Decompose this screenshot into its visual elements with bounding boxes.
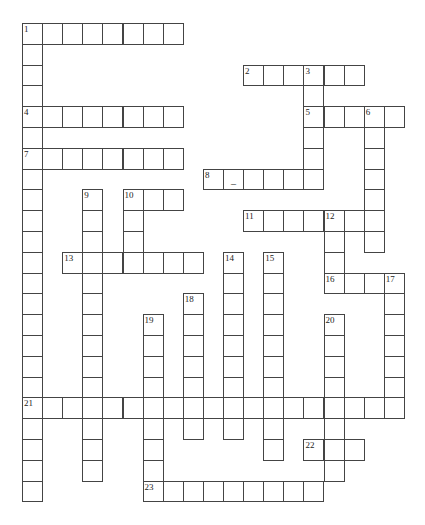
grid-cell[interactable] bbox=[324, 377, 345, 399]
grid-cell[interactable] bbox=[163, 148, 184, 170]
grid-cell[interactable] bbox=[263, 314, 284, 336]
grid-cell[interactable] bbox=[102, 23, 123, 45]
grid-cell[interactable]: 21 bbox=[22, 397, 43, 419]
grid-cell[interactable] bbox=[223, 377, 244, 399]
grid-cell[interactable] bbox=[263, 273, 284, 295]
grid-cell[interactable] bbox=[42, 106, 63, 128]
grid-cell[interactable]: 11 bbox=[243, 210, 264, 232]
grid-cell[interactable]: 14 bbox=[223, 252, 244, 274]
grid-cell[interactable]: 19 bbox=[143, 314, 164, 336]
grid-cell[interactable] bbox=[303, 397, 324, 419]
grid-cell[interactable] bbox=[344, 210, 365, 232]
grid-cell[interactable]: 4 bbox=[22, 106, 43, 128]
grid-cell[interactable] bbox=[384, 356, 405, 378]
grid-cell[interactable] bbox=[22, 127, 43, 149]
grid-cell[interactable] bbox=[22, 460, 43, 482]
grid-cell[interactable] bbox=[324, 439, 345, 461]
grid-cell[interactable] bbox=[82, 231, 103, 253]
grid-cell[interactable] bbox=[183, 397, 204, 419]
grid-cell[interactable] bbox=[344, 439, 365, 461]
grid-cell[interactable]: 18 bbox=[183, 293, 204, 315]
grid-cell[interactable] bbox=[22, 439, 43, 461]
grid-cell[interactable] bbox=[163, 252, 184, 274]
grid-cell[interactable] bbox=[123, 210, 144, 232]
grid-cell[interactable] bbox=[384, 293, 405, 315]
grid-cell[interactable] bbox=[384, 397, 405, 419]
grid-cell[interactable] bbox=[143, 23, 164, 45]
grid-cell[interactable]: 5 bbox=[303, 106, 324, 128]
grid-cell[interactable] bbox=[384, 314, 405, 336]
grid-cell[interactable] bbox=[42, 148, 63, 170]
grid-cell[interactable]: 8 bbox=[203, 169, 224, 191]
grid-cell[interactable] bbox=[163, 397, 184, 419]
grid-cell[interactable] bbox=[163, 106, 184, 128]
grid-cell[interactable] bbox=[203, 481, 224, 503]
grid-cell[interactable] bbox=[283, 210, 304, 232]
grid-cell[interactable] bbox=[22, 418, 43, 440]
grid-cell[interactable] bbox=[62, 23, 83, 45]
grid-cell[interactable] bbox=[223, 356, 244, 378]
grid-cell[interactable] bbox=[183, 418, 204, 440]
grid-cell[interactable] bbox=[183, 356, 204, 378]
grid-cell[interactable]: 20 bbox=[324, 314, 345, 336]
grid-cell[interactable] bbox=[223, 481, 244, 503]
grid-cell[interactable] bbox=[384, 106, 405, 128]
grid-cell[interactable] bbox=[123, 397, 144, 419]
grid-cell[interactable] bbox=[82, 314, 103, 336]
grid-cell[interactable] bbox=[263, 481, 284, 503]
grid-cell[interactable] bbox=[223, 293, 244, 315]
grid-cell[interactable] bbox=[223, 273, 244, 295]
grid-cell[interactable] bbox=[22, 252, 43, 274]
grid-cell[interactable] bbox=[22, 169, 43, 191]
grid-cell[interactable] bbox=[22, 65, 43, 87]
grid-cell[interactable] bbox=[263, 210, 284, 232]
grid-cell[interactable] bbox=[102, 252, 123, 274]
grid-cell[interactable] bbox=[42, 397, 63, 419]
grid-cell[interactable] bbox=[143, 106, 164, 128]
grid-cell[interactable] bbox=[223, 314, 244, 336]
grid-cell[interactable] bbox=[82, 273, 103, 295]
grid-cell[interactable]: 13 bbox=[62, 252, 83, 274]
grid-cell[interactable] bbox=[183, 252, 204, 274]
grid-cell[interactable] bbox=[203, 397, 224, 419]
grid-cell[interactable] bbox=[324, 106, 345, 128]
grid-cell[interactable] bbox=[102, 106, 123, 128]
grid-cell[interactable] bbox=[102, 397, 123, 419]
grid-cell[interactable] bbox=[263, 439, 284, 461]
grid-cell[interactable] bbox=[263, 356, 284, 378]
grid-cell[interactable] bbox=[303, 481, 324, 503]
grid-cell[interactable] bbox=[183, 335, 204, 357]
grid-cell[interactable] bbox=[143, 460, 164, 482]
grid-cell[interactable] bbox=[364, 189, 385, 211]
grid-cell[interactable]: 12 bbox=[324, 210, 345, 232]
grid-cell[interactable] bbox=[22, 377, 43, 399]
grid-cell[interactable] bbox=[303, 85, 324, 107]
grid-cell[interactable] bbox=[324, 418, 345, 440]
grid-cell[interactable] bbox=[283, 65, 304, 87]
grid-cell[interactable] bbox=[344, 397, 365, 419]
grid-cell[interactable] bbox=[364, 148, 385, 170]
grid-cell[interactable] bbox=[82, 252, 103, 274]
grid-cell[interactable] bbox=[163, 23, 184, 45]
grid-cell[interactable]: 16 bbox=[324, 273, 345, 295]
grid-cell[interactable] bbox=[102, 148, 123, 170]
grid-cell[interactable] bbox=[82, 293, 103, 315]
grid-cell[interactable]: 15 bbox=[263, 252, 284, 274]
grid-cell[interactable] bbox=[22, 85, 43, 107]
grid-cell[interactable] bbox=[384, 377, 405, 399]
grid-cell[interactable] bbox=[82, 377, 103, 399]
grid-cell[interactable] bbox=[143, 377, 164, 399]
grid-cell[interactable] bbox=[22, 44, 43, 66]
grid-cell[interactable] bbox=[364, 127, 385, 149]
grid-cell[interactable] bbox=[22, 210, 43, 232]
grid-cell[interactable]: 3 bbox=[303, 65, 324, 87]
grid-cell[interactable] bbox=[22, 314, 43, 336]
grid-cell[interactable] bbox=[384, 335, 405, 357]
grid-cell[interactable] bbox=[263, 293, 284, 315]
grid-cell[interactable] bbox=[82, 397, 103, 419]
grid-cell[interactable] bbox=[82, 210, 103, 232]
grid-cell[interactable] bbox=[22, 293, 43, 315]
grid-cell[interactable] bbox=[283, 481, 304, 503]
grid-cell[interactable] bbox=[82, 418, 103, 440]
grid-cell[interactable] bbox=[183, 314, 204, 336]
